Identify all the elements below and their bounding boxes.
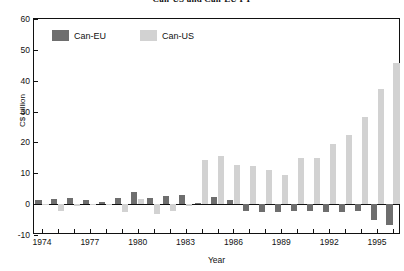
y-tick-label: 10: [21, 168, 30, 178]
bar-can-eu-1978: [99, 202, 105, 204]
x-tick-label: 1974: [33, 237, 52, 247]
bar-can-eu-1985: [211, 197, 217, 204]
x-tick-mark: [297, 229, 298, 233]
bar-can-us-1979: [122, 204, 128, 212]
legend-swatch-can-eu: [52, 30, 69, 41]
legend-item-can-us: Can-US: [140, 30, 194, 41]
bar-can-us-1980: [138, 199, 144, 204]
y-tick-label: 50: [21, 45, 30, 55]
y-tick-mark: [34, 19, 38, 20]
bar-can-eu-1979: [115, 198, 121, 204]
bar-can-eu-1991: [307, 204, 313, 211]
bar-can-us-1982: [170, 204, 176, 211]
x-tick-label: 1992: [320, 237, 339, 247]
bar-can-us-1995: [378, 89, 384, 204]
bar-can-eu-1993: [339, 204, 345, 212]
bar-can-eu-1989: [275, 204, 281, 212]
bar-can-eu-1984: [195, 203, 201, 204]
x-tick-label: 1986: [224, 237, 243, 247]
x-tick-mark: [361, 229, 362, 233]
bar-can-us-1993: [346, 135, 352, 204]
legend-label-can-us: Can-US: [162, 31, 194, 41]
bar-can-eu-1994: [355, 204, 361, 210]
bar-can-eu-1988: [259, 204, 265, 211]
x-tick-mark: [377, 229, 378, 233]
x-tick-mark: [122, 229, 123, 233]
bar-can-us-1994: [362, 117, 368, 205]
x-tick-mark: [202, 229, 203, 233]
bar-can-us-1974: [42, 204, 48, 205]
x-tick-label: 1980: [128, 237, 147, 247]
bar-can-eu-1980: [131, 192, 137, 204]
bar-can-us-1996: [393, 63, 399, 204]
bar-can-us-1991: [314, 158, 320, 204]
x-tick-mark: [281, 229, 282, 233]
bar-can-us-1987: [250, 166, 256, 205]
x-tick-label: 1977: [80, 237, 99, 247]
bar-can-eu-1995: [371, 204, 377, 219]
x-tick-mark: [90, 229, 91, 233]
x-tick-mark: [345, 229, 346, 233]
chart-legend: Can-EU Can-US: [52, 30, 194, 41]
bar-can-eu-1977: [83, 200, 89, 204]
y-tick-mark: [34, 81, 38, 82]
bar-can-eu-1987: [243, 204, 249, 211]
legend-item-can-eu: Can-EU: [52, 30, 106, 41]
x-tick-label: 1995: [368, 237, 387, 247]
x-tick-label: 1989: [272, 237, 291, 247]
y-tick-mark: [34, 204, 38, 205]
y-tick-label: 0: [25, 199, 30, 209]
y-tick-label: 20: [21, 137, 30, 147]
bar-can-eu-1975: [51, 199, 57, 204]
x-tick-mark: [265, 229, 266, 233]
x-tick-mark: [154, 229, 155, 233]
bar-can-us-1988: [266, 170, 272, 204]
x-tick-mark: [233, 229, 234, 233]
y-tick-mark: [34, 235, 38, 236]
y-tick-label: -10: [18, 230, 30, 240]
legend-label-can-eu: Can-EU: [74, 31, 106, 41]
bar-can-us-1984: [202, 160, 208, 204]
y-tick-label: 40: [21, 76, 30, 86]
y-tick-mark: [34, 142, 38, 143]
x-tick-mark: [106, 229, 107, 233]
chart-title: Can-US and Can-EU FT: [0, 0, 404, 3]
x-tick-mark: [249, 229, 250, 233]
y-tick-mark: [34, 173, 38, 174]
bar-can-eu-1996: [386, 204, 392, 225]
x-tick-mark: [329, 229, 330, 233]
y-axis-label: C$ billion: [18, 94, 27, 127]
x-tick-mark: [74, 229, 75, 233]
bar-can-us-1989: [282, 175, 288, 204]
bar-can-eu-1986: [227, 200, 233, 204]
x-tick-mark: [58, 229, 59, 233]
bar-can-us-1992: [330, 144, 336, 204]
bar-can-eu-1983: [179, 195, 185, 204]
bar-can-eu-1982: [163, 196, 169, 205]
bar-can-eu-1981: [147, 198, 153, 204]
bar-can-us-1981: [154, 204, 160, 214]
chart-figure: Can-US and Can-EU FT -100102030405060 19…: [0, 0, 404, 271]
y-tick-label: 60: [21, 14, 30, 24]
bar-can-us-1990: [298, 158, 304, 204]
y-tick-mark: [34, 112, 38, 113]
plot-area: -100102030405060 19741977198019831986198…: [33, 18, 400, 234]
x-tick-mark: [42, 229, 43, 233]
x-tick-mark: [170, 229, 171, 233]
bar-can-us-1978: [106, 204, 112, 205]
x-tick-mark: [393, 229, 394, 233]
bar-can-eu-1992: [323, 204, 329, 211]
x-tick-mark: [138, 229, 139, 233]
bar-can-us-1977: [90, 204, 96, 205]
x-axis-label: Year: [33, 255, 400, 265]
y-tick-mark: [34, 50, 38, 51]
bar-can-us-1985: [218, 156, 224, 204]
bar-can-us-1976: [74, 204, 80, 206]
legend-swatch-can-us: [140, 30, 157, 41]
x-tick-label: 1983: [176, 237, 195, 247]
bar-can-us-1975: [58, 204, 64, 211]
bar-can-us-1986: [234, 165, 240, 204]
bar-can-us-1983: [186, 204, 192, 206]
x-tick-mark: [218, 229, 219, 233]
bar-can-eu-1990: [291, 204, 297, 211]
